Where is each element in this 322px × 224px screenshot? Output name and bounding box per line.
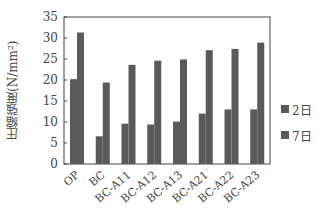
bar-bc-2day <box>96 136 103 164</box>
bar-bc-a22-2day <box>225 109 232 164</box>
bar-bc-a13-7day <box>180 59 187 164</box>
plot-frame <box>64 17 270 164</box>
legend-label-7day: 7日 <box>292 127 312 144</box>
legend-item-2day: 2日 <box>281 96 312 122</box>
y-tick-label: 15 <box>43 94 58 108</box>
bar-bc-a13-2day <box>173 122 180 164</box>
legend-label-2day: 2日 <box>292 101 312 118</box>
y-tick-label: 10 <box>43 115 58 129</box>
bar-bc-a22-7day <box>232 49 239 164</box>
bar-bc-a12-7day <box>154 61 161 164</box>
bar-bc-7day <box>103 83 110 164</box>
bar-bc-a21-7day <box>206 50 213 164</box>
y-tick-label: 20 <box>43 73 58 87</box>
bar-op-7day <box>77 33 84 164</box>
bar-bc-a23-2day <box>250 109 257 164</box>
y-tick-label: 30 <box>43 31 58 45</box>
x-tick-label: OP <box>61 168 82 189</box>
bar-chart: 05101520253035OPBCBC-A11BC-A12BC-A13BC-A… <box>0 0 322 224</box>
bar-bc-a21-2day <box>199 114 206 164</box>
legend: 2日 7日 <box>281 96 312 148</box>
y-tick-label: 5 <box>50 136 58 150</box>
bar-bc-a11-7day <box>129 65 136 164</box>
y-tick-label: 0 <box>50 157 58 171</box>
bar-bc-a23-7day <box>257 43 264 164</box>
legend-swatch-7day <box>281 131 289 139</box>
y-tick-label: 35 <box>43 10 58 24</box>
bar-op-2day <box>70 79 77 164</box>
bar-bc-a12-2day <box>147 125 154 164</box>
y-tick-label: 25 <box>43 52 58 66</box>
bar-bc-a11-2day <box>122 124 129 164</box>
legend-swatch-2day <box>281 105 289 113</box>
legend-item-7day: 7日 <box>281 122 312 148</box>
